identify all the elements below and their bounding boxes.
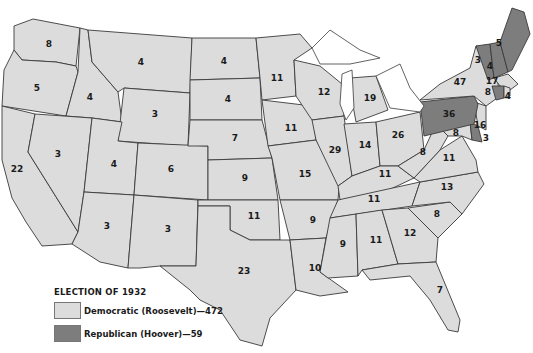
legend-item-democratic: Democratic (Roosevelt)—472 [54, 302, 223, 319]
label-al: 11 [370, 235, 383, 245]
label-ca: 22 [11, 164, 24, 174]
label-ri: 4 [505, 91, 511, 101]
label-nh: 4 [487, 61, 493, 71]
label-va: 11 [443, 153, 456, 163]
label-il: 29 [329, 145, 342, 155]
label-ma: 17 [486, 76, 499, 86]
label-oh: 26 [392, 130, 405, 140]
label-co: 6 [168, 164, 174, 174]
label-ms: 9 [340, 239, 346, 249]
label-mt: 4 [138, 57, 144, 67]
label-tn: 11 [368, 194, 381, 204]
legend-label-democratic: Democratic (Roosevelt)—472 [84, 306, 223, 316]
label-ky: 11 [379, 169, 392, 179]
label-wi: 12 [318, 87, 331, 97]
label-mi: 19 [364, 93, 377, 103]
label-sc: 8 [434, 209, 440, 219]
label-nc: 13 [441, 182, 454, 192]
label-tx: 23 [238, 266, 251, 276]
label-ne: 7 [232, 133, 238, 143]
label-ga: 12 [404, 228, 417, 238]
label-wy: 3 [152, 109, 158, 119]
label-mn: 11 [271, 73, 284, 83]
label-wv: 8 [420, 147, 426, 157]
label-ok: 11 [248, 211, 261, 221]
label-sd: 4 [225, 94, 231, 104]
state-nm [128, 195, 198, 268]
label-nv: 3 [55, 149, 61, 159]
legend-label-republican: Republican (Hoover)—59 [84, 329, 203, 339]
label-nj: 16 [474, 120, 487, 130]
label-id: 4 [87, 92, 93, 102]
state-fl [362, 262, 460, 332]
label-fl: 7 [437, 285, 443, 295]
label-ut: 4 [111, 159, 117, 169]
label-ia: 11 [285, 123, 298, 133]
label-wa: 8 [46, 39, 52, 49]
label-la: 10 [309, 263, 322, 273]
label-mo: 15 [299, 169, 312, 179]
legend-title: ELECTION OF 1932 [54, 287, 223, 297]
legend-item-republican: Republican (Hoover)—59 [54, 325, 223, 342]
lake-superior [312, 30, 380, 64]
label-in: 14 [359, 140, 372, 150]
legend: ELECTION OF 1932 Democratic (Roosevelt)—… [54, 287, 223, 348]
label-az: 3 [104, 221, 110, 231]
republican-swatch [54, 325, 81, 342]
label-pa: 36 [443, 109, 456, 119]
label-ar: 9 [310, 215, 316, 225]
label-nm: 3 [165, 224, 171, 234]
label-or: 5 [34, 83, 40, 93]
label-ny: 47 [454, 77, 467, 87]
label-me: 5 [496, 38, 502, 48]
label-nd: 4 [221, 56, 227, 66]
label-de: 3 [483, 133, 489, 143]
democratic-swatch [54, 302, 81, 319]
label-ct: 8 [485, 87, 491, 97]
label-ks: 9 [242, 173, 248, 183]
label-md: 8 [453, 128, 459, 138]
label-vt: 3 [475, 55, 481, 65]
